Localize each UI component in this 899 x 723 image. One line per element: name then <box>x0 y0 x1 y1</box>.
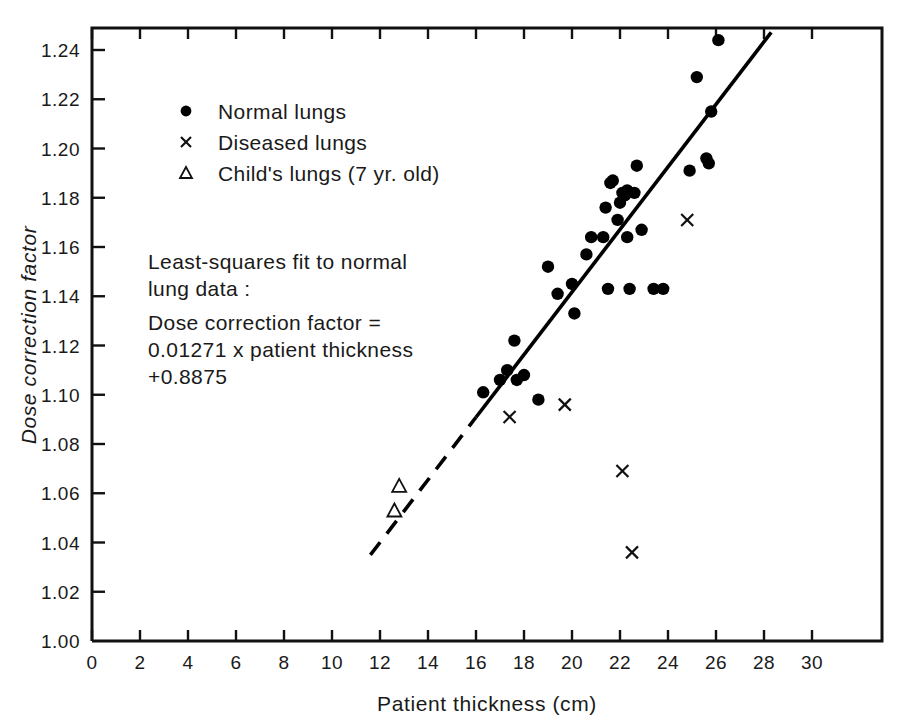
data-point-normal <box>628 187 640 199</box>
y-tick-label: 1.00 <box>41 631 80 652</box>
plot-frame <box>92 28 882 641</box>
legend-label-diseased-lungs: Diseased lungs <box>218 131 367 154</box>
data-point-normal <box>712 34 724 46</box>
x-tick-label: 24 <box>657 652 679 673</box>
data-point-normal <box>691 71 703 83</box>
y-tick-label: 1.24 <box>41 40 80 61</box>
data-point-child <box>392 479 406 492</box>
x-tick-label: 0 <box>86 652 97 673</box>
x-tick-label: 30 <box>801 652 823 673</box>
data-point-diseased <box>626 546 638 558</box>
data-point-normal <box>602 283 614 295</box>
data-point-diseased <box>504 411 516 423</box>
annotation-line-2: lung data : <box>148 277 250 300</box>
data-point-diseased <box>616 465 628 477</box>
data-point-normal <box>597 231 609 243</box>
y-tick-label: 1.16 <box>41 237 80 258</box>
legend-label-normal-lungs: Normal lungs <box>218 100 347 123</box>
x-tick-label: 18 <box>513 652 535 673</box>
data-point-normal <box>683 164 695 176</box>
y-tick-label: 1.20 <box>41 139 80 160</box>
figure-container: 024681012141618202224262830 1.001.021.04… <box>0 0 899 723</box>
x-axis-title: Patient thickness (cm) <box>377 692 597 715</box>
data-point-normal <box>518 369 530 381</box>
x-tick-label: 28 <box>753 652 775 673</box>
data-point-normal <box>607 174 619 186</box>
data-point-normal <box>532 393 544 405</box>
annotation-line-1: Least-squares fit to normal <box>148 250 407 273</box>
legend-entry-normal-lungs: Normal lungs <box>181 100 347 123</box>
data-point-normal <box>477 386 489 398</box>
data-point-normal <box>621 231 633 243</box>
legend-label-childs-lungs: Child's lungs (7 yr. old) <box>218 162 440 185</box>
data-point-normal <box>635 224 647 236</box>
data-point-normal <box>580 248 592 260</box>
data-point-normal <box>599 201 611 213</box>
annotation-line-4: 0.01271 x patient thickness <box>148 338 413 361</box>
x-tick-label: 2 <box>134 652 145 673</box>
fit-annotation: Least-squares fit to normal lung data : … <box>148 250 413 388</box>
data-point-normal <box>508 334 520 346</box>
data-point-normal <box>494 374 506 386</box>
y-tick-label: 1.22 <box>41 89 80 110</box>
x-tick-label: 4 <box>182 652 193 673</box>
data-point-normal <box>566 278 578 290</box>
data-point-normal <box>631 160 643 172</box>
y-tick-label: 1.04 <box>41 533 80 554</box>
annotation-line-5: +0.8875 <box>148 365 227 388</box>
filled-circle-icon <box>181 106 192 117</box>
open-triangle-icon <box>180 167 192 178</box>
data-point-normal <box>623 283 635 295</box>
x-tick-label: 10 <box>321 652 343 673</box>
x-axis-tick-labels: 024681012141618202224262830 <box>86 652 823 673</box>
data-point-normal <box>585 231 597 243</box>
y-tick-label: 1.14 <box>41 286 80 307</box>
x-tick-label: 26 <box>705 652 727 673</box>
y-tick-label: 1.08 <box>41 434 80 455</box>
y-axis-ticks <box>92 50 105 592</box>
scatter-plot-svg: 024681012141618202224262830 1.001.021.04… <box>0 0 899 723</box>
legend: Normal lungs Diseased lungs Child's lung… <box>180 100 440 185</box>
data-point-normal <box>501 364 513 376</box>
x-tick-label: 8 <box>278 652 289 673</box>
y-axis-tick-labels: 1.001.021.041.061.081.101.121.141.161.18… <box>41 40 80 652</box>
x-tick-label: 14 <box>417 652 439 673</box>
y-axis-title: Dose correction factor <box>17 225 40 444</box>
x-tick-label: 16 <box>465 652 487 673</box>
legend-entry-diseased-lungs: Diseased lungs <box>181 131 367 154</box>
y-tick-label: 1.10 <box>41 385 80 406</box>
data-points-diseased-lungs <box>504 214 694 558</box>
y-tick-label: 1.02 <box>41 582 80 603</box>
data-point-normal <box>568 307 580 319</box>
x-marker-icon <box>181 137 191 147</box>
data-point-normal <box>657 283 669 295</box>
x-tick-label: 22 <box>609 652 631 673</box>
data-point-normal <box>551 288 563 300</box>
fit-line-extrapolated <box>370 417 476 555</box>
x-tick-label: 20 <box>561 652 583 673</box>
data-point-normal <box>705 105 717 117</box>
data-point-normal <box>611 214 623 226</box>
data-point-diseased <box>559 399 571 411</box>
x-tick-label: 6 <box>230 652 241 673</box>
y-tick-label: 1.06 <box>41 483 80 504</box>
x-tick-label: 12 <box>369 652 391 673</box>
data-point-normal <box>703 157 715 169</box>
data-point-diseased <box>681 214 693 226</box>
annotation-line-3: Dose correction factor = <box>148 311 381 334</box>
legend-entry-childs-lungs: Child's lungs (7 yr. old) <box>180 162 440 185</box>
data-point-child <box>387 503 401 516</box>
y-tick-label: 1.12 <box>41 336 80 357</box>
axis-box <box>92 28 882 641</box>
y-tick-label: 1.18 <box>41 188 80 209</box>
fit-line-solid <box>476 32 771 417</box>
data-point-normal <box>542 261 554 273</box>
